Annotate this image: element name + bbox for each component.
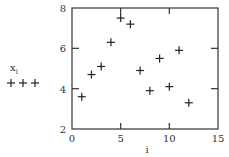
legend-plus-icon [31, 79, 39, 87]
plot-frame [72, 8, 218, 129]
y-tick-label: 6 [60, 43, 66, 54]
x-tick-labels: 051015 [69, 133, 225, 144]
data-point-plus-icon [126, 20, 134, 28]
x-tick-label: 0 [69, 133, 75, 144]
data-point-plus-icon [175, 46, 183, 54]
data-point-plus-icon [136, 67, 144, 75]
x-tick-label: 10 [163, 133, 176, 144]
x-tick-label: 5 [117, 133, 123, 144]
data-points [78, 14, 193, 107]
data-point-plus-icon [165, 83, 173, 91]
data-point-plus-icon [87, 71, 95, 79]
data-point-plus-icon [156, 54, 164, 62]
data-point-plus-icon [78, 93, 86, 101]
data-point-plus-icon [185, 99, 193, 107]
data-point-plus-icon [117, 14, 125, 22]
y-tick-labels: 2468 [60, 3, 66, 135]
y-tick-label: 2 [60, 124, 66, 135]
plot-border [72, 8, 218, 129]
x-axis-label: i [145, 144, 148, 155]
y-tick-label: 4 [60, 84, 66, 95]
axis-ticks [72, 8, 218, 129]
data-point-plus-icon [146, 87, 154, 95]
legend-label: xi [10, 62, 19, 76]
legend: xi [7, 62, 39, 87]
legend-plus-icon [7, 79, 15, 87]
data-point-plus-icon [97, 62, 105, 70]
scatter-chart: xi 051015 2468 i [0, 0, 229, 157]
data-point-plus-icon [107, 38, 115, 46]
x-tick-label: 15 [212, 133, 225, 144]
y-tick-label: 8 [60, 3, 66, 14]
legend-plus-markers [7, 79, 39, 87]
legend-plus-icon [19, 79, 27, 87]
